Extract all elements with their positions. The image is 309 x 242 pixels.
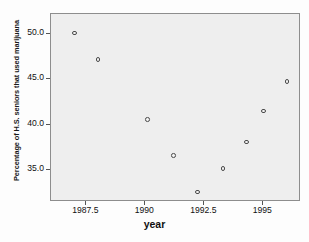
data-point bbox=[285, 79, 290, 84]
scatter-plot-figure: Percentage of H.S. seniors that used mar… bbox=[0, 0, 309, 242]
x-axis-title: year bbox=[0, 218, 309, 230]
y-tick-label: 45.0 bbox=[6, 72, 44, 82]
x-tick-label: 1992.5 bbox=[181, 205, 225, 215]
x-tick-label: 1987.5 bbox=[63, 205, 107, 215]
data-point bbox=[96, 57, 101, 62]
plot-area bbox=[50, 13, 300, 201]
data-point bbox=[244, 140, 249, 145]
y-tick-label: 35.0 bbox=[6, 163, 44, 173]
data-point bbox=[145, 117, 150, 122]
x-tick-label: 1990 bbox=[122, 205, 166, 215]
data-point bbox=[221, 166, 226, 171]
y-tick-label: 40.0 bbox=[6, 118, 44, 128]
data-point bbox=[195, 190, 200, 195]
y-tick-label: 50.0 bbox=[6, 27, 44, 37]
data-point bbox=[261, 109, 266, 114]
data-point bbox=[171, 153, 176, 158]
x-tick-label: 1995 bbox=[240, 205, 284, 215]
data-point bbox=[72, 31, 77, 36]
